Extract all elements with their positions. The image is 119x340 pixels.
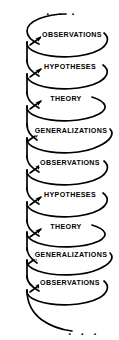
stage-label-generalizations-2: GENERALIZATIONS: [34, 252, 109, 259]
stage-label-hypotheses-2: HYPOTHESES: [43, 192, 97, 199]
stage-label-theory-2: THEORY: [49, 224, 82, 231]
bottom-ellipsis: . . .: [68, 326, 99, 337]
stage-label-observations-2: OBSERVATIONS: [39, 160, 101, 167]
stage-label-hypotheses-1: HYPOTHESES: [43, 64, 97, 71]
top-ellipsis: . . .: [46, 6, 77, 17]
stage-label-observations-1: OBSERVATIONS: [41, 32, 103, 39]
stage-label-observations-3: OBSERVATIONS: [39, 280, 101, 287]
stage-label-theory-1: THEORY: [49, 96, 82, 103]
spiral-diagram: . . . OBSERVATIONS HYPOTHESES THEORY GEN…: [0, 0, 119, 340]
stage-label-generalizations-1: GENERALIZATIONS: [34, 128, 109, 135]
spiral-path-graphic: [0, 0, 119, 340]
